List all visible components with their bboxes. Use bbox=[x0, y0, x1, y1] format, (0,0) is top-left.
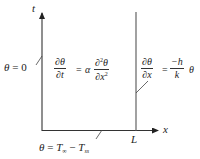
left-boundary-condition: θ = 0 bbox=[4, 62, 27, 73]
rbc-rhs-denominator: k bbox=[174, 70, 180, 80]
x-axis-label: x bbox=[163, 124, 168, 135]
rbc-rhs-numerator: −h bbox=[170, 57, 184, 67]
bottom-bc-leader bbox=[96, 130, 102, 139]
rhs-numerator: ∂2θ bbox=[94, 57, 109, 68]
alpha-coefficient: α bbox=[85, 65, 90, 75]
governing-equation: ∂θ ∂t = α ∂2θ ∂x2 bbox=[54, 57, 128, 83]
rbc-lhs-denominator: ∂x bbox=[141, 70, 152, 80]
theta-symbol: θ bbox=[39, 141, 44, 153]
theta-symbol: θ bbox=[189, 65, 194, 75]
equals-sign: = bbox=[162, 65, 168, 75]
rbc-lhs-numerator: ∂θ bbox=[141, 57, 153, 67]
rbc-lhs-fraction: ∂θ ∂x bbox=[141, 57, 153, 80]
t-axis-label: t bbox=[32, 3, 35, 14]
fraction-bar bbox=[94, 69, 109, 70]
lhs-denominator: ∂t bbox=[55, 70, 65, 80]
bottom-boundary-condition: θ = T∞ − Tss bbox=[39, 142, 89, 154]
left-bc-leader bbox=[36, 56, 42, 65]
rhs-fraction: ∂2θ ∂x2 bbox=[94, 57, 109, 82]
right-boundary-condition: ∂θ ∂x = −h k θ bbox=[141, 57, 199, 83]
length-marker-L: L bbox=[131, 134, 137, 145]
equals-sign: = bbox=[12, 61, 18, 73]
equals-sign: = bbox=[76, 65, 82, 75]
t-infinity: T∞ bbox=[56, 141, 66, 153]
rhs-denominator: ∂x2 bbox=[94, 71, 108, 82]
equals-sign: = bbox=[47, 141, 53, 153]
lhs-fraction: ∂θ ∂t bbox=[54, 57, 66, 80]
t-steady-state: Tss bbox=[78, 141, 89, 153]
theta-symbol: θ bbox=[4, 61, 9, 73]
left-bc-value: 0 bbox=[21, 61, 27, 73]
rbc-rhs-fraction: −h k bbox=[170, 57, 184, 80]
lhs-numerator: ∂θ bbox=[54, 57, 66, 67]
minus-sign: − bbox=[69, 141, 75, 153]
